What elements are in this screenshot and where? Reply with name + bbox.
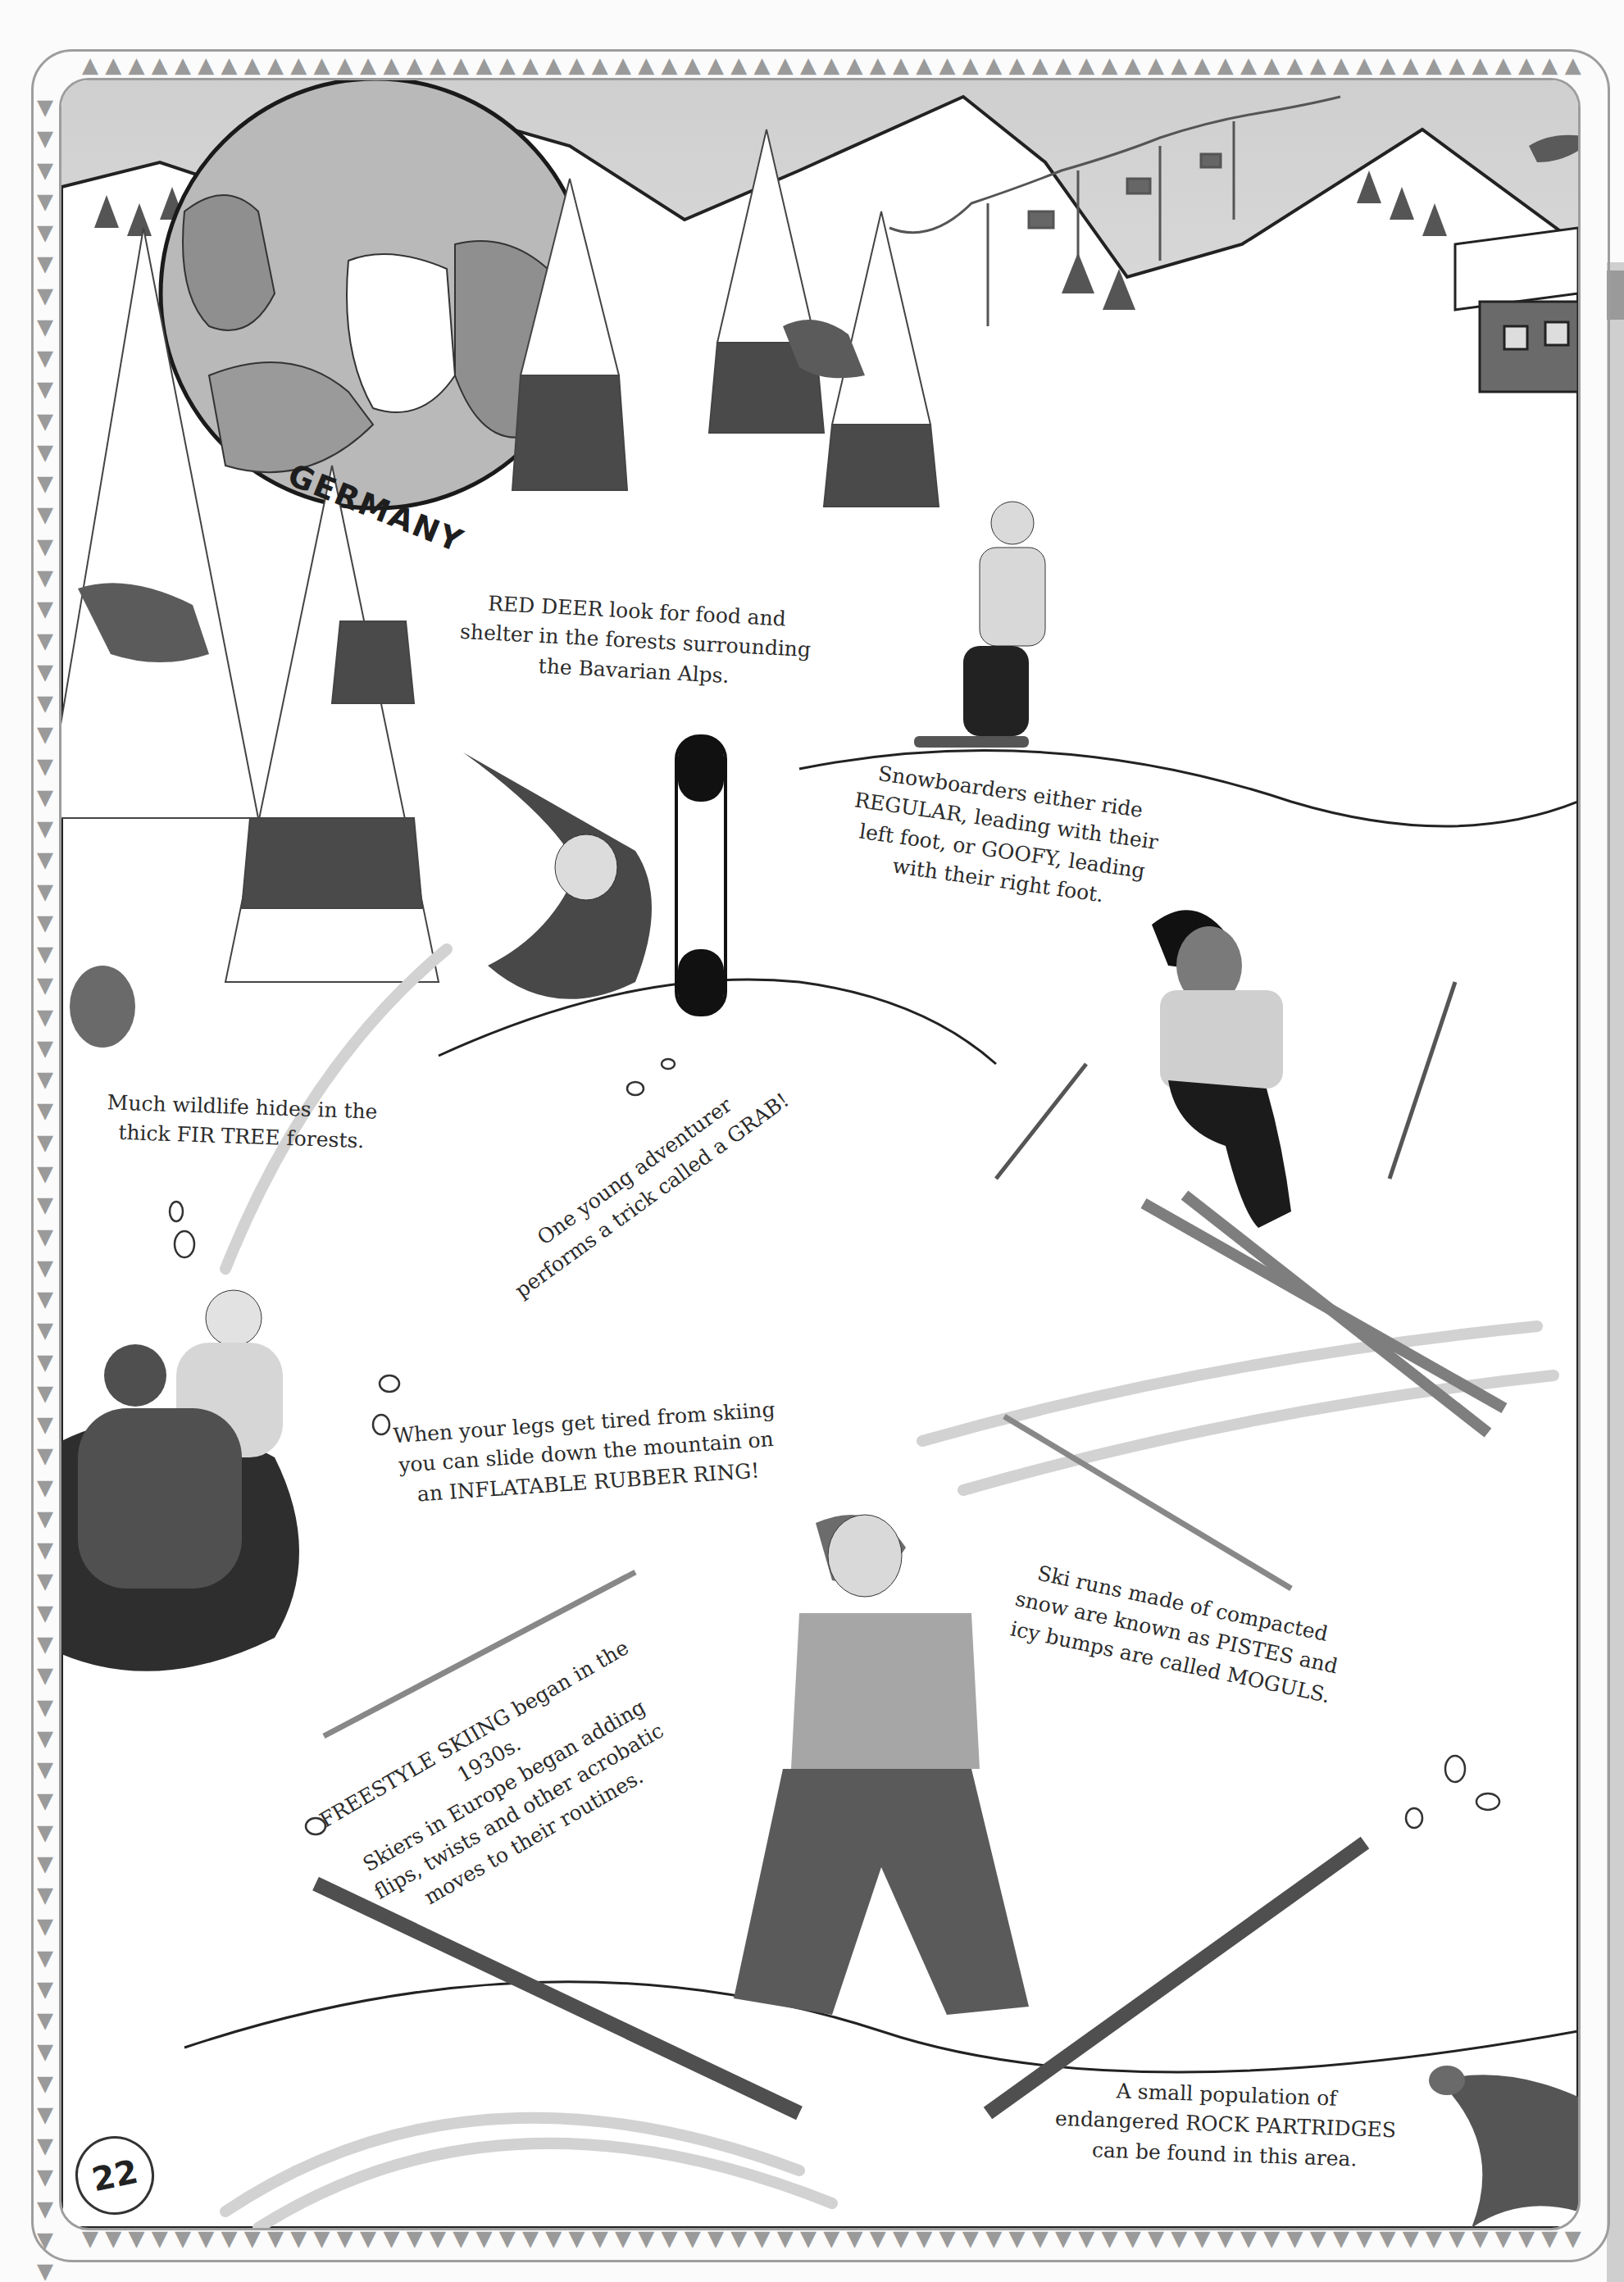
- caption-rock-partridge: A small population of endangered ROCK PA…: [1052, 2075, 1399, 2175]
- ski-scene-illustration: [61, 80, 1578, 2228]
- caption-wildlife: Much wildlife hides in the thick FIR TRE…: [85, 1087, 398, 1157]
- flying-bird-icon: [1529, 135, 1578, 162]
- tree-border-left: ▲ ▲ ▲ ▲ ▲ ▲ ▲ ▲ ▲ ▲ ▲ ▲ ▲ ▲ ▲ ▲ ▲ ▲ ▲ ▲ …: [34, 98, 56, 2282]
- tree-border-top: ▲ ▲ ▲ ▲ ▲ ▲ ▲ ▲ ▲ ▲ ▲ ▲ ▲ ▲ ▲ ▲ ▲ ▲ ▲ ▲ …: [82, 54, 1581, 75]
- tree-border-bottom: ▲ ▲ ▲ ▲ ▲ ▲ ▲ ▲ ▲ ▲ ▲ ▲ ▲ ▲ ▲ ▲ ▲ ▲ ▲ ▲ …: [82, 2231, 1581, 2252]
- grouse-icon: [70, 966, 135, 1048]
- illustration-panel: GERMANY RED DEER look for food and shelt…: [59, 78, 1581, 2230]
